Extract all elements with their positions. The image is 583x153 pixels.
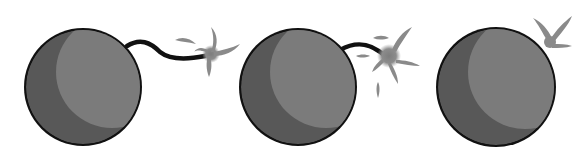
bombs-illustration <box>0 0 583 153</box>
fuse-1 <box>127 42 205 59</box>
bomb-3 <box>436 15 582 147</box>
spark-3-icon <box>533 16 572 48</box>
spark-2-icon <box>356 27 420 98</box>
bomb-2 <box>239 16 420 146</box>
spark-1-icon <box>175 27 240 77</box>
bomb-1 <box>24 16 240 146</box>
